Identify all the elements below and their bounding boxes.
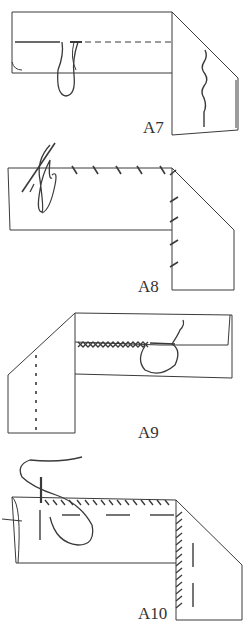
figure-label: A8 (138, 278, 159, 295)
figure-a8: A8 (0, 140, 251, 300)
fabric-hem-drawing (0, 300, 251, 445)
figure-label: A7 (143, 119, 164, 136)
fabric-hem-drawing (0, 445, 251, 623)
figure-label: A10 (138, 605, 167, 622)
figure-a9: A9 (0, 300, 251, 445)
figure-a7: A7 (0, 0, 251, 140)
figure-label: A9 (138, 424, 159, 441)
fabric-hem-drawing (0, 0, 251, 140)
fabric-hem-drawing (0, 140, 251, 300)
figure-a10: A10 (0, 445, 251, 623)
